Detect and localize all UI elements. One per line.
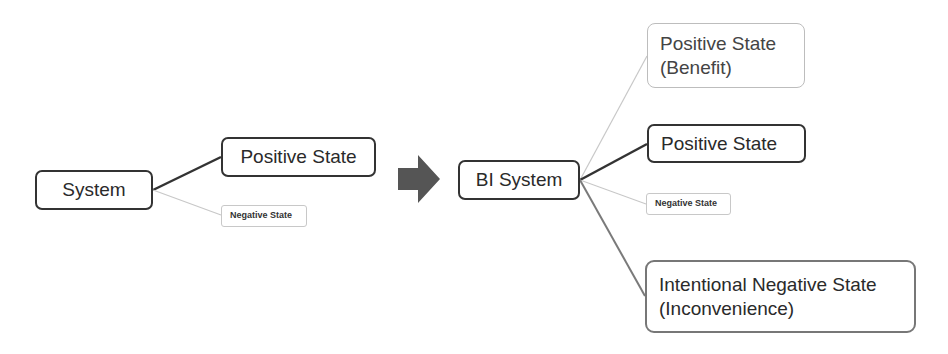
edge-bi-intentional-negative xyxy=(580,180,645,296)
node-negative-state-before-label: Negative State xyxy=(230,210,292,221)
right-arrow-icon xyxy=(398,155,440,203)
edge-system-negative xyxy=(153,190,221,215)
edge-bi-negative xyxy=(580,180,646,204)
node-positive-state-before-label: Positive State xyxy=(240,145,356,169)
node-system: System xyxy=(35,170,153,210)
node-negative-state-after-label: Negative State xyxy=(655,198,717,209)
node-bi-system-label: BI System xyxy=(476,168,563,192)
node-system-label: System xyxy=(62,178,125,202)
node-positive-state-after-label: Positive State xyxy=(661,132,777,156)
node-positive-state-benefit: Positive State (Benefit) xyxy=(647,23,805,88)
node-positive-state-before: Positive State xyxy=(221,137,376,177)
node-negative-state-after: Negative State xyxy=(646,193,731,215)
node-intentional-negative-state: Intentional Negative State (Inconvenienc… xyxy=(645,260,916,333)
node-positive-state-benefit-label: Positive State (Benefit) xyxy=(660,32,776,80)
edge-system-positive xyxy=(153,157,221,190)
node-bi-system: BI System xyxy=(458,160,580,200)
node-negative-state-before: Negative State xyxy=(221,205,307,227)
node-positive-state-after: Positive State xyxy=(647,124,806,163)
node-intentional-negative-state-label: Intentional Negative State (Inconvenienc… xyxy=(659,273,877,321)
